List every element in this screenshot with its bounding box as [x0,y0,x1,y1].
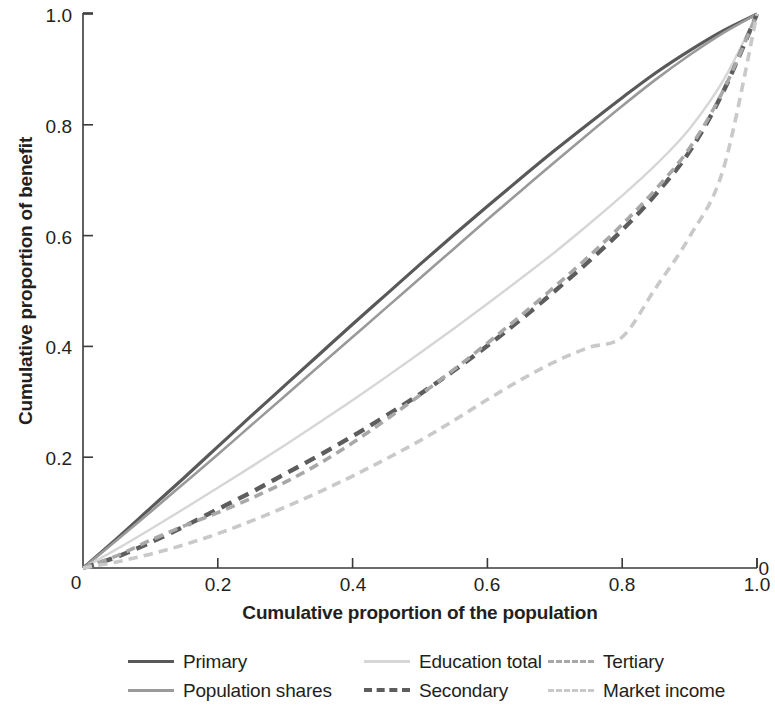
legend-label-population-shares: Population shares [183,681,332,700]
legend-label-education-total: Education total [419,652,542,671]
legend-swatch-tertiary [548,660,594,663]
legend-swatch-market-income [548,689,594,692]
legend-label-market-income: Market income [603,681,725,700]
legend-item-primary[interactable]: Primary [128,647,247,675]
legend-swatch-secondary [364,688,410,692]
legend-swatch-primary [128,660,174,663]
legend-label-tertiary: Tertiary [603,652,664,671]
legend-item-population-shares[interactable]: Population shares [128,676,332,704]
legend-label-primary: Primary [183,652,247,671]
legend-swatch-population-shares [128,689,174,692]
chart-legend: Primary Population shares Education tota… [0,645,769,706]
curve-group [83,14,757,568]
legend-item-market-income[interactable]: Market income [548,676,725,704]
legend-item-secondary[interactable]: Secondary [364,676,508,704]
legend-item-tertiary[interactable]: Tertiary [548,647,664,675]
legend-swatch-education-total [364,660,410,663]
curve-population-shares [83,14,757,568]
legend-label-secondary: Secondary [419,681,508,700]
x-axis-title: Cumulative proportion of the population [83,602,757,624]
legend-item-education-total[interactable]: Education total [364,647,542,675]
